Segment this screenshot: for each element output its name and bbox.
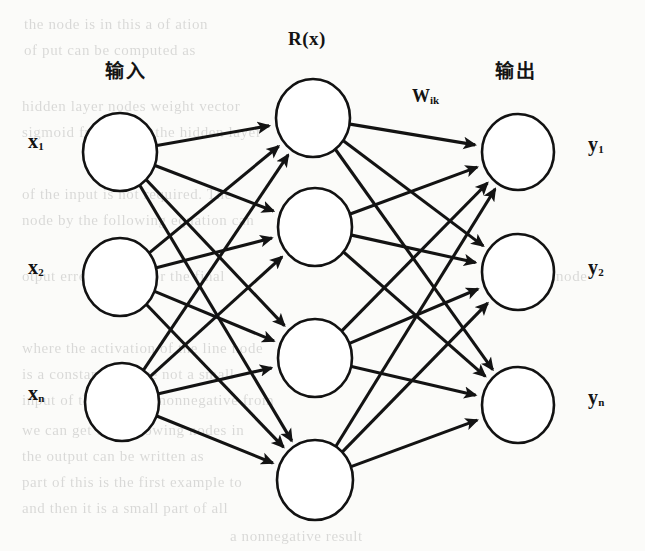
edge-input-2-hidden-4 (146, 304, 284, 447)
edge-hidden-4-output-3 (351, 420, 477, 467)
output-node-2 (482, 234, 554, 310)
output-node-label-1-main: y (588, 133, 598, 155)
input-node-label-n: xn (28, 382, 45, 405)
input-node-2 (83, 238, 157, 316)
hidden-node-1 (276, 79, 350, 157)
output-node-label-2-sub: 2 (598, 266, 604, 278)
activation-function-label: R(x) (288, 28, 326, 50)
output-node-3 (482, 367, 554, 443)
hidden-node-4 (277, 440, 353, 520)
output-node-label-1-sub: 1 (598, 143, 604, 155)
output-node-label-1: y1 (588, 133, 604, 156)
output-node-label-n-sub: n (598, 396, 604, 408)
edge-input-3-hidden-4 (157, 416, 273, 463)
output-node-label-2: y2 (588, 256, 604, 279)
edge-hidden-2-output-3 (343, 252, 485, 377)
edge-input-3-hidden-2 (150, 257, 282, 377)
edge-input-1-hidden-4 (139, 184, 292, 441)
edge-input-1-hidden-1 (157, 126, 269, 146)
edges-input-to-hidden (139, 126, 292, 463)
edge-hidden-3-output-1 (341, 183, 487, 331)
input-node-label-2-sub: 2 (38, 266, 44, 278)
weight-symbol-label: Wik (412, 86, 439, 107)
output-node-label-n-main: y (588, 386, 598, 408)
hidden-node-3 (278, 319, 352, 397)
input-layer-label: 输入 (105, 56, 147, 83)
figure-page: the node is in this a of ationof put can… (0, 0, 645, 551)
input-node-label-2: x2 (28, 256, 44, 279)
edge-hidden-3-output-2 (350, 289, 478, 343)
input-node-label-1: x1 (28, 130, 44, 153)
edge-hidden-4-output-2 (342, 303, 488, 452)
input-node-label-n-main: x (28, 382, 38, 404)
weight-symbol-subscript: ik (430, 94, 439, 106)
input-node-label-1-sub: 1 (38, 140, 44, 152)
edge-hidden-2-output-1 (350, 167, 477, 214)
input-node-label-2-main: x (28, 256, 38, 278)
neural-network-diagram (0, 0, 645, 551)
weight-symbol-main: W (412, 86, 430, 106)
edges-hidden-to-output (335, 124, 495, 467)
input-node-3 (85, 363, 159, 441)
output-node-1 (482, 114, 554, 190)
output-node-label-n: yn (588, 386, 605, 409)
edge-hidden-1-output-1 (350, 124, 475, 145)
hidden-node-2 (278, 188, 352, 266)
input-node-1 (83, 113, 157, 191)
output-node-label-2-main: y (588, 256, 598, 278)
nodes (83, 79, 554, 520)
input-node-label-n-sub: n (38, 392, 44, 404)
output-layer-label: 输出 (495, 56, 537, 83)
edge-hidden-1-output-2 (343, 141, 483, 246)
input-node-label-1-main: x (28, 130, 38, 152)
